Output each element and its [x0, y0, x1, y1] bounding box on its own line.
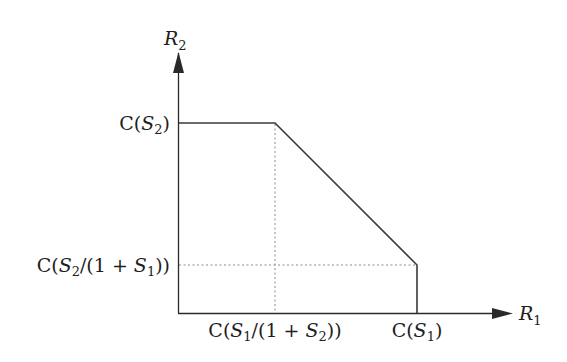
- x-tick-right-label: C(S1): [392, 319, 443, 344]
- y-axis-label-sub: 2: [178, 38, 186, 53]
- x-axis-label-main: R: [518, 302, 533, 324]
- y-tick-top-label: C(S2): [119, 112, 170, 137]
- y-axis-label: R2: [163, 27, 187, 53]
- x-tick-left-label: C(S1/(1 + S2)): [208, 319, 341, 344]
- y-axis-label-main: R: [163, 27, 178, 49]
- x-axis-arrow-icon: [492, 308, 513, 319]
- capacity-region-diagram: R2 R1 C(S2) C(S2/(1 + S1)) C(S1/(1 + S2)…: [0, 0, 567, 362]
- region-boundary: [179, 123, 417, 313]
- y-tick-bottom-label: C(S2/(1 + S1)): [37, 254, 170, 279]
- x-axis-label-sub: 1: [533, 313, 541, 328]
- y-axis-arrow-icon: [173, 52, 184, 73]
- x-axis-label: R1: [518, 302, 542, 328]
